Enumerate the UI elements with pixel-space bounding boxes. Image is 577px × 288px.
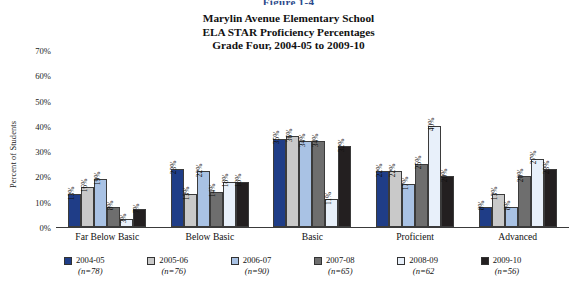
bar-value-label: 13%	[183, 186, 190, 200]
legend-series-count: (n=76)	[159, 266, 188, 277]
bar-value-label: 40%	[427, 118, 434, 132]
bar-value-label: 18%	[222, 174, 229, 188]
legend-item[interactable]: 2008-09(n=62	[389, 255, 472, 276]
bar[interactable]: 14%	[210, 192, 223, 227]
chart-title-line-1: Marylin Avenue Elementary School	[0, 12, 577, 26]
legend-swatch-icon	[481, 257, 489, 265]
bar-value-label: 20%	[517, 169, 524, 183]
y-axis-tick: 10%	[35, 198, 51, 208]
y-axis-tick: 70%	[35, 46, 51, 56]
x-axis-labels: Far Below BasicBelow BasicBasicProficien…	[56, 231, 569, 242]
y-axis-tick: 30%	[35, 147, 51, 157]
legend-series-count: (n=65)	[326, 266, 355, 277]
legend-item[interactable]: 2004-05(n=78)	[56, 255, 139, 276]
bar[interactable]: 34%	[312, 141, 325, 227]
bar[interactable]: 16%	[81, 187, 94, 227]
bar-value-label: 22%	[388, 164, 395, 178]
bar[interactable]: 8%	[479, 207, 492, 227]
bar[interactable]: 8%	[505, 207, 518, 227]
bar[interactable]: 18%	[223, 182, 236, 228]
x-axis-category-label: Far Below Basic	[56, 231, 159, 242]
x-axis-line	[56, 227, 569, 228]
bar[interactable]: 36%	[286, 136, 299, 227]
legend-text: 2004-05(n=78)	[76, 255, 105, 276]
legend-series-count: (n=90)	[243, 266, 272, 277]
bar[interactable]: 13%	[184, 194, 197, 227]
y-axis-tick: 60%	[35, 71, 51, 81]
bar[interactable]: 23%	[544, 169, 557, 227]
legend-series-name: 2008-09	[409, 255, 438, 266]
legend-item[interactable]: 2005-06(n=76)	[139, 255, 222, 276]
bar[interactable]: 3%	[120, 219, 133, 227]
bar-value-label: 8%	[106, 201, 113, 211]
bar-value-label: 3%	[119, 213, 126, 223]
legend-item[interactable]: 2007-08(n=65)	[306, 255, 389, 276]
legend-item[interactable]: 2006-07(n=90)	[223, 255, 306, 276]
figure-number-label: Figure 1-4	[0, 0, 577, 5]
bar-value-label: 36%	[286, 128, 293, 142]
bar-value-label: 20%	[440, 169, 447, 183]
bar[interactable]: 25%	[415, 164, 428, 227]
bar[interactable]: 18%	[236, 182, 249, 228]
bar[interactable]: 13%	[492, 194, 505, 227]
x-axis-category-label: Advanced	[466, 231, 569, 242]
bar-group: 23%13%22%14%18%18%	[159, 51, 262, 227]
bar-value-label: 34%	[299, 133, 306, 147]
bar[interactable]: 22%	[197, 171, 210, 227]
bar-value-label: 18%	[235, 174, 242, 188]
bar-value-label: 19%	[93, 171, 100, 185]
bar-group: 13%16%19%8%3%7%	[56, 51, 159, 227]
x-axis-category-label: Basic	[261, 231, 364, 242]
bar-value-label: 8%	[504, 201, 511, 211]
bar-value-label: 32%	[338, 138, 345, 152]
legend-swatch-icon	[147, 257, 155, 265]
legend-swatch-icon	[231, 257, 239, 265]
bar[interactable]: 22%	[376, 171, 389, 227]
legend-series-count: (n=62	[409, 266, 438, 277]
chart-title: Marylin Avenue Elementary School ELA STA…	[0, 12, 577, 53]
legend-swatch-icon	[64, 257, 72, 265]
bar-value-label: 23%	[170, 161, 177, 175]
x-axis-category-label: Below Basic	[159, 231, 262, 242]
legend-series-count: (n=56)	[493, 266, 522, 277]
bar[interactable]: 34%	[299, 141, 312, 227]
bar[interactable]: 7%	[133, 209, 146, 227]
y-axis-tick: 20%	[35, 172, 51, 182]
bar-value-label: 27%	[530, 151, 537, 165]
legend-text: 2006-07(n=90)	[243, 255, 272, 276]
bar-value-label: 13%	[67, 186, 74, 200]
bar[interactable]: 13%	[68, 194, 81, 227]
chart-legend: 2004-05(n=78)2005-06(n=76)2006-07(n=90)2…	[56, 255, 556, 276]
bar[interactable]: 32%	[338, 146, 351, 227]
legend-series-name: 2006-07	[243, 255, 272, 266]
legend-item[interactable]: 2009-10(n=56)	[473, 255, 556, 276]
bar-value-label: 8%	[478, 201, 485, 211]
bar-value-label: 22%	[196, 164, 203, 178]
legend-text: 2009-10(n=56)	[493, 255, 522, 276]
bar-group: 8%13%8%20%27%23%	[466, 51, 569, 227]
bar-value-label: 11%	[325, 192, 332, 205]
bar-group: 35%36%34%34%11%32%	[261, 51, 364, 227]
bar[interactable]: 11%	[325, 199, 338, 227]
bar-groups: 13%16%19%8%3%7%23%13%22%14%18%18%35%36%3…	[56, 51, 569, 227]
bar-value-label: 34%	[312, 133, 319, 147]
bar[interactable]: 35%	[273, 139, 286, 228]
bar[interactable]: 20%	[518, 176, 531, 227]
legend-text: 2005-06(n=76)	[159, 255, 188, 276]
legend-swatch-icon	[314, 257, 322, 265]
legend-text: 2007-08(n=65)	[326, 255, 355, 276]
legend-text: 2008-09(n=62	[409, 255, 438, 276]
bar-group: 22%22%17%25%40%20%	[364, 51, 467, 227]
legend-series-name: 2004-05	[76, 255, 105, 266]
bar[interactable]: 17%	[402, 184, 415, 227]
x-axis-category-label: Proficient	[364, 231, 467, 242]
bar-value-label: 25%	[414, 156, 421, 170]
bar-value-label: 7%	[132, 203, 139, 213]
bar-value-label: 16%	[80, 179, 87, 193]
y-axis-tick: 0%	[40, 223, 51, 233]
y-axis-tick: 50%	[35, 97, 51, 107]
bar[interactable]: 20%	[441, 176, 454, 227]
y-axis-tick: 40%	[35, 122, 51, 132]
bar-value-label: 23%	[543, 161, 550, 175]
chart-title-line-2: ELA STAR Proficiency Percentages	[0, 26, 577, 40]
